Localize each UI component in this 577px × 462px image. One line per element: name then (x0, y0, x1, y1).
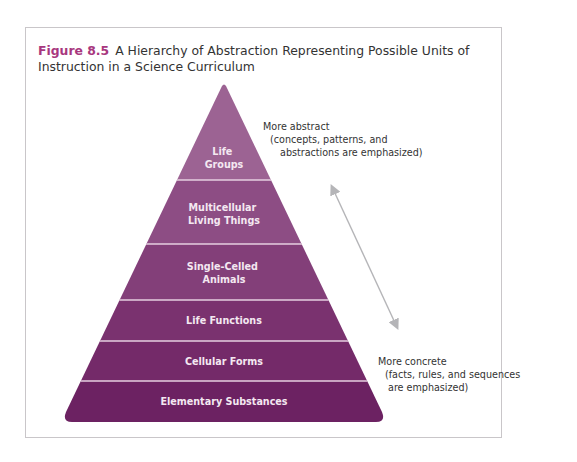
label-life-functions: Life Functions (186, 315, 262, 326)
concrete-heading: More concrete (378, 355, 520, 368)
abstract-heading: More abstract (263, 120, 423, 133)
level-single-celled (40, 244, 400, 300)
concrete-detail-2: are emphasized) (378, 381, 520, 394)
concrete-detail-1: (facts, rules, and sequences (378, 368, 520, 381)
abstract-annotation: More abstract (concepts, patterns, and a… (263, 120, 423, 159)
concrete-annotation: More concrete (facts, rules, and sequenc… (378, 355, 520, 394)
abstract-detail-1: (concepts, patterns, and (263, 133, 423, 146)
abstract-detail-2: abstractions are emphasized) (263, 146, 423, 159)
double-arrow-icon (333, 189, 396, 325)
label-cellular-forms: Cellular Forms (185, 356, 263, 367)
label-elementary-substances: Elementary Substances (160, 396, 287, 407)
